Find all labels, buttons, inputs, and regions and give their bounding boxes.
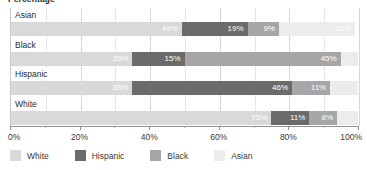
category-label: Black bbox=[13, 39, 39, 51]
bar-segment[interactable]: 46% bbox=[132, 81, 292, 95]
bar-track: 75%11%8% bbox=[11, 111, 358, 125]
bar-track: 49%19%9%22% bbox=[11, 22, 358, 36]
bar-segment[interactable]: 75% bbox=[11, 111, 271, 125]
chart-title: Percentage bbox=[8, 0, 55, 4]
bar-segment[interactable] bbox=[330, 81, 358, 95]
axis-tick bbox=[219, 126, 220, 130]
axis-tick bbox=[288, 126, 289, 130]
axis-tick bbox=[10, 126, 11, 130]
bar-row: Asian49%19%9%22% bbox=[11, 8, 358, 38]
bar-segment-label: 15% bbox=[164, 55, 184, 63]
bar-segment[interactable]: 45% bbox=[185, 52, 341, 66]
bar-segment[interactable]: 35% bbox=[11, 81, 132, 95]
bar-row: Hispanic35%46%11% bbox=[11, 67, 358, 97]
bar-segment-label: 22% bbox=[335, 25, 355, 33]
bar-segment-label: 11% bbox=[290, 114, 309, 122]
bar-segment-label: 9% bbox=[263, 25, 279, 33]
bar-segment[interactable]: 35% bbox=[11, 52, 132, 66]
category-label: Asian bbox=[13, 9, 39, 21]
legend-label: Hispanic bbox=[92, 151, 125, 161]
bar-row: White75%11%8% bbox=[11, 97, 358, 127]
category-label: Hispanic bbox=[13, 68, 51, 80]
chart-legend: WhiteHispanicBlackAsian bbox=[10, 150, 278, 161]
legend-item[interactable]: Hispanic bbox=[75, 150, 125, 161]
plot-area: Asian49%19%9%22%Black35%15%45%Hispanic35… bbox=[10, 8, 358, 126]
axis-tick-minor bbox=[45, 126, 46, 128]
bar-segment[interactable]: 11% bbox=[271, 111, 309, 125]
bar-segment-label: 46% bbox=[272, 84, 292, 92]
bar-track: 35%46%11% bbox=[11, 81, 358, 95]
legend-label: Black bbox=[167, 151, 188, 161]
stacked-bar-chart: Percentage Asian49%19%9%22%Black35%15%45… bbox=[0, 0, 367, 170]
bar-segment[interactable] bbox=[337, 111, 358, 125]
legend-swatch-icon bbox=[214, 150, 225, 161]
bar-segment[interactable]: 9% bbox=[248, 22, 279, 36]
bar-segment[interactable]: 19% bbox=[182, 22, 248, 36]
axis-tick-label: 60% bbox=[210, 132, 227, 142]
axis-tick-label: 80% bbox=[280, 132, 297, 142]
bar-track: 35%15%45% bbox=[11, 52, 358, 66]
axis-tick bbox=[149, 126, 150, 130]
axis-tick-minor bbox=[254, 126, 255, 128]
legend-item[interactable]: Asian bbox=[214, 150, 252, 161]
axis-tick bbox=[80, 126, 81, 130]
axis-tick-label: 100% bbox=[340, 132, 362, 142]
gridline-major bbox=[359, 8, 360, 126]
bar-segment[interactable] bbox=[341, 52, 358, 66]
bar-segment[interactable]: 49% bbox=[11, 22, 182, 36]
category-label: White bbox=[13, 98, 40, 110]
bar-segment-label: 8% bbox=[322, 114, 338, 122]
bar-row: Black35%15%45% bbox=[11, 38, 358, 68]
bar-segment[interactable]: 15% bbox=[132, 52, 184, 66]
bar-segment[interactable]: 22% bbox=[279, 22, 356, 36]
axis-tick-minor bbox=[323, 126, 324, 128]
bar-segment-label: 75% bbox=[251, 114, 271, 122]
legend-swatch-icon bbox=[10, 150, 21, 161]
legend-swatch-icon bbox=[150, 150, 161, 161]
legend-label: White bbox=[27, 151, 49, 161]
axis-tick-minor bbox=[184, 126, 185, 128]
bar-segment-label: 35% bbox=[112, 84, 132, 92]
bar-segment[interactable]: 11% bbox=[292, 81, 330, 95]
bar-segment-label: 45% bbox=[321, 55, 341, 63]
axis-tick-minor bbox=[114, 126, 115, 128]
bar-segment-label: 49% bbox=[162, 25, 182, 33]
legend-item[interactable]: White bbox=[10, 150, 49, 161]
legend-item[interactable]: Black bbox=[150, 150, 188, 161]
bar-segment-label: 35% bbox=[112, 55, 132, 63]
legend-label: Asian bbox=[231, 151, 252, 161]
legend-swatch-icon bbox=[75, 150, 86, 161]
axis-tick-label: 20% bbox=[71, 132, 88, 142]
axis-tick bbox=[358, 126, 359, 130]
bar-segment-label: 19% bbox=[228, 25, 248, 33]
axis-tick-label: 0% bbox=[8, 132, 20, 142]
bar-segment[interactable]: 8% bbox=[309, 111, 337, 125]
axis-tick-label: 40% bbox=[141, 132, 158, 142]
bar-segment-label: 11% bbox=[311, 84, 330, 92]
